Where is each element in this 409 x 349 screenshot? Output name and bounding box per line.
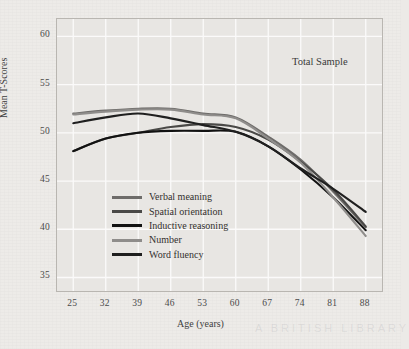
- total-sample-annotation: Total Sample: [292, 56, 348, 67]
- legend-color-swatch: [112, 253, 142, 256]
- legend-item: Inductive reasoning: [112, 219, 228, 233]
- y-tick-label: 45: [24, 174, 50, 184]
- legend-color-swatch: [112, 239, 142, 242]
- legend-item: Spatial orientation: [112, 204, 228, 218]
- x-tick-label: 60: [222, 298, 248, 308]
- x-tick-label: 74: [287, 298, 313, 308]
- legend-label: Number: [149, 235, 182, 245]
- y-tick-label: 40: [24, 222, 50, 232]
- x-tick-label: 88: [352, 298, 378, 308]
- x-tick-label: 39: [124, 298, 150, 308]
- x-tick-label: 53: [189, 298, 215, 308]
- legend-color-swatch: [112, 196, 142, 199]
- chart-legend: Verbal meaningSpatial orientationInducti…: [112, 190, 228, 262]
- y-tick-label: 60: [24, 29, 50, 39]
- legend-label: Inductive reasoning: [149, 221, 228, 231]
- y-tick-label: 35: [24, 270, 50, 280]
- x-tick-label: 32: [92, 298, 118, 308]
- y-tick-label: 50: [24, 126, 50, 136]
- x-tick-label: 25: [59, 298, 85, 308]
- x-tick-label: 81: [319, 298, 345, 308]
- legend-item: Verbal meaning: [112, 190, 228, 204]
- legend-label: Word fluency: [149, 250, 203, 260]
- legend-color-swatch: [112, 224, 142, 227]
- legend-item: Number: [112, 233, 228, 247]
- legend-color-swatch: [112, 210, 142, 213]
- x-tick-label: 46: [157, 298, 183, 308]
- legend-label: Verbal meaning: [149, 192, 212, 202]
- y-tick-label: 55: [24, 78, 50, 88]
- x-tick-label: 67: [254, 298, 280, 308]
- y-axis-title: Mean T-Scores: [0, 0, 9, 118]
- library-watermark: A BRITISH LIBRARY: [255, 322, 409, 334]
- legend-item: Word fluency: [112, 248, 228, 262]
- legend-label: Spatial orientation: [149, 207, 223, 217]
